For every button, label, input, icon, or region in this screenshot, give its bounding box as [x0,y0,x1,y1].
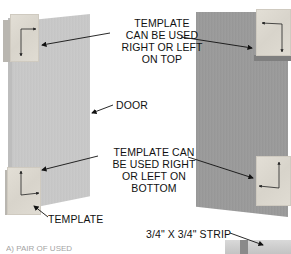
label-line: TEMPLATE CAN [98,146,210,158]
template-top-left-marks [21,29,36,56]
arrow-template-label [34,206,48,217]
label-line: ON TOP [112,53,212,65]
template-bottom-right-marks [259,162,279,188]
label-template-bottom: TEMPLATE CAN BE USED RIGHT OR LEFT ON BO… [98,146,210,194]
label-line: BOTTOM [98,182,210,194]
label-line: TEMPLATE [112,17,212,29]
template-top-right-marks [262,23,282,52]
label-line: RIGHT OR LEFT [112,41,212,53]
template-bottom-left-marks [21,171,39,195]
arrow-template-top-left [42,33,110,45]
label-line: OR LEFT ON [98,170,210,182]
label-strip: 3/4" X 3/4" STRIP [146,228,231,240]
label-line: CAN BE USED [112,29,212,41]
label-template-top: TEMPLATE CAN BE USED RIGHT OR LEFT ON TO… [112,17,212,65]
arrow-door [92,105,113,113]
cut-off-caption-fragment: A) PAIR OF USED [6,244,72,253]
label-line: BE USED RIGHT [98,158,210,170]
arrow-template-bottom-left [42,156,98,170]
label-door: DOOR [116,99,148,111]
arrow-strip [230,233,263,245]
label-template: TEMPLATE [48,213,103,225]
